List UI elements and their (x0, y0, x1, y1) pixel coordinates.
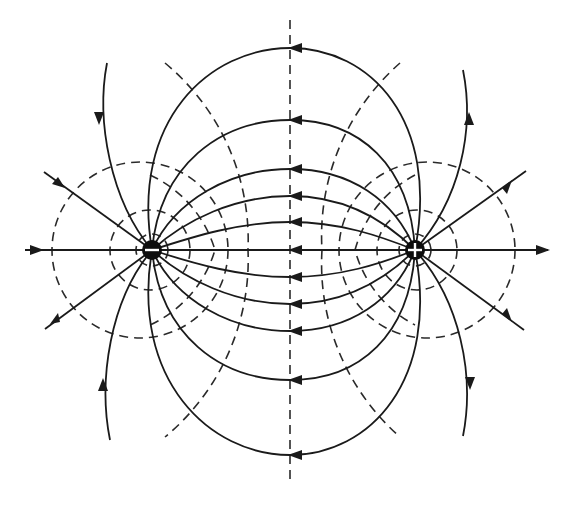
field-line-lower-4 (152, 250, 415, 380)
positive-charge (405, 240, 425, 260)
field-line-upper-5 (152, 222, 415, 250)
arrow-diag-icon (502, 308, 512, 322)
equipotential-lines (52, 20, 515, 485)
field-line-upper-4 (152, 196, 415, 250)
arrow-right-icon (30, 245, 44, 255)
arrow-up-icon (464, 112, 474, 125)
negative-charge (142, 240, 162, 260)
field-line-lower-5 (148, 250, 420, 455)
field-line-upper-2 (152, 120, 415, 250)
arrow-down-icon (94, 112, 104, 125)
field-line-lower-1 (152, 250, 415, 277)
field-line-neg-diag-bottom (45, 250, 152, 329)
field-line-upper-1 (148, 48, 420, 250)
field-line-pos-outer-bottom (415, 250, 467, 436)
arrow-diag-icon (50, 313, 60, 324)
field-line-neg-outer-top (103, 63, 152, 250)
field-line-pos-outer-top (415, 70, 467, 250)
arrow-right-icon (536, 245, 550, 255)
dipole-field-diagram (0, 0, 563, 505)
arrow-diag-icon (502, 180, 512, 194)
field-lines (25, 48, 548, 455)
